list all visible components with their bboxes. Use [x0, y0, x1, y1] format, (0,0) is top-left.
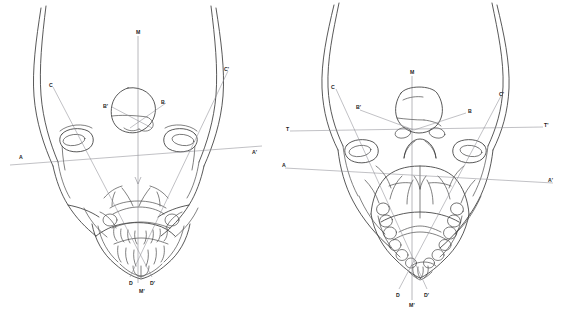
- label-left-C: C: [49, 83, 53, 88]
- label-right-B: B: [468, 109, 472, 114]
- label-right-A-prime: A': [548, 178, 553, 183]
- left-reference-lines: [10, 36, 262, 283]
- label-right-B-prime: B': [356, 105, 361, 110]
- label-left-M: M: [136, 30, 140, 35]
- label-right-C-prime: C': [499, 92, 504, 97]
- label-left-D: D: [129, 281, 133, 286]
- label-right-M-prime: M': [409, 303, 415, 308]
- label-right-M: M: [410, 70, 414, 75]
- line-Cp-D: [130, 71, 228, 277]
- craniometric-figure: M C C' B' B A A' D M' D' M C C' B' B T T…: [0, 0, 562, 318]
- label-right-A: A: [282, 163, 286, 168]
- line-Bp: [112, 107, 152, 128]
- label-left-B-prime: B': [103, 104, 108, 109]
- line-Cp-D: [399, 96, 501, 289]
- label-right-D: D: [396, 293, 400, 298]
- line-Bp: [360, 110, 414, 130]
- transverse-line-A-Ap: [10, 146, 262, 165]
- right-reference-lines: [285, 76, 553, 300]
- label-left-A-prime: A': [252, 150, 257, 155]
- line-C-Dp: [336, 89, 427, 289]
- left-skull-outline: [33, 6, 223, 279]
- label-right-T: T: [286, 127, 289, 132]
- right-skull-drawing: [281, 0, 562, 318]
- label-right-C: C: [331, 85, 335, 90]
- line-B: [414, 113, 466, 130]
- label-left-C-prime: C': [224, 67, 229, 72]
- label-left-M-prime: M': [139, 289, 145, 294]
- label-left-A: A: [19, 155, 23, 160]
- label-right-T-prime: T': [544, 123, 549, 128]
- label-left-D-prime: D': [150, 281, 155, 286]
- label-right-D-prime: D': [424, 293, 429, 298]
- label-left-B: B: [161, 100, 165, 105]
- right-skull-outline: [322, 3, 509, 280]
- left-skull-drawing: [0, 0, 281, 318]
- transverse-line-A-Ap: [285, 168, 553, 183]
